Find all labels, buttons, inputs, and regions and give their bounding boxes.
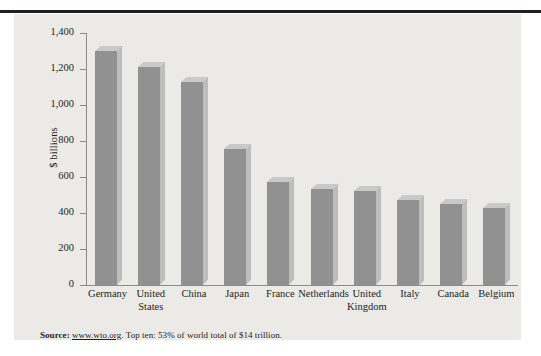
bar-front-face	[483, 208, 505, 285]
bar-top-face	[311, 184, 339, 189]
y-tick-label: 200	[28, 243, 74, 254]
bar	[483, 203, 507, 285]
bar-side-face	[505, 202, 510, 285]
bar-front-face	[397, 200, 419, 286]
bar	[138, 62, 162, 285]
x-axis-labels: GermanyUnited StatesChinaJapanFranceNeth…	[86, 288, 518, 328]
bar-front-face	[267, 182, 289, 285]
source-label: Source:	[40, 330, 70, 340]
bar	[440, 199, 464, 285]
bar	[267, 177, 291, 285]
x-axis-label: Belgium	[467, 288, 526, 301]
bar-side-face	[160, 62, 165, 285]
bar	[397, 195, 421, 286]
bar-side-face	[117, 45, 122, 285]
y-tick-label: 1,000	[28, 99, 74, 110]
bar	[311, 184, 335, 285]
source-note: Source: www.wto.org. Top ten: 53% of wor…	[40, 330, 282, 340]
bar-front-face	[95, 51, 117, 285]
y-tick-label: 800	[28, 135, 74, 146]
y-tick-label: 1,400	[28, 27, 74, 38]
bar-front-face	[311, 189, 333, 285]
bar-front-face	[354, 191, 376, 285]
bar-front-face	[138, 67, 160, 285]
chart-panel: $ billions 1,4001,2001,0008006004002000 …	[14, 14, 521, 340]
source-text: . Top ten: 53% of world total of $14 tri…	[121, 330, 282, 340]
y-tick-label: 600	[28, 171, 74, 182]
bar-side-face	[333, 183, 338, 285]
y-tick-label: 400	[28, 207, 74, 218]
top-rule-divider	[0, 10, 541, 13]
y-tick-label: 1,200	[28, 63, 74, 74]
bar-side-face	[203, 76, 208, 285]
source-url[interactable]: www.wto.org	[72, 330, 121, 340]
bar-front-face	[224, 149, 246, 285]
bar-series	[86, 33, 518, 285]
figure-container: $ billions 1,4001,2001,0008006004002000 …	[0, 0, 541, 356]
bar-side-face	[376, 186, 381, 285]
bar	[354, 186, 378, 285]
bar-side-face	[289, 177, 294, 285]
bar	[224, 144, 248, 285]
bar-front-face	[181, 82, 203, 285]
x-axis-line	[86, 285, 518, 286]
bar	[95, 46, 119, 285]
bar-front-face	[440, 204, 462, 285]
bar-side-face	[419, 194, 424, 285]
bar	[181, 77, 205, 285]
bar-side-face	[246, 144, 251, 285]
y-tick-label: 0	[28, 279, 74, 290]
bar-side-face	[462, 198, 467, 285]
y-tick-mark	[80, 285, 86, 286]
